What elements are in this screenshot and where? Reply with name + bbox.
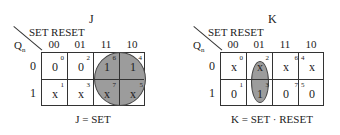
kmap-cell: x 6: [273, 53, 299, 80]
grid-line: [42, 79, 144, 80]
cell-index: 2: [266, 54, 270, 62]
cell-value: x: [247, 60, 273, 75]
cell-value: 0: [42, 60, 68, 75]
row-variable-label: Qn: [193, 39, 204, 54]
cell-value: 1: [94, 60, 120, 75]
cell-value: 1: [247, 87, 273, 102]
grid-line: [221, 79, 323, 80]
row-header: 0: [206, 59, 218, 74]
row-header: 0: [27, 59, 39, 74]
kmap-formula: J = SET: [8, 113, 178, 125]
cell-index: 0: [240, 54, 244, 62]
column-header: 01: [67, 38, 93, 50]
cell-index: 6: [113, 54, 117, 62]
cell-value: 0: [273, 87, 299, 102]
kmap-cell: 0 5: [299, 80, 325, 107]
column-header: 00: [220, 38, 246, 50]
column-header: 00: [41, 38, 67, 50]
cell-value: x: [68, 87, 94, 102]
kmap-cell: x 3: [68, 80, 94, 107]
cell-value: 0: [68, 60, 94, 75]
cell-value: x: [120, 87, 146, 102]
kmap-cell: 0 1: [221, 80, 247, 107]
cell-index: 5: [140, 81, 144, 89]
cell-index: 2: [87, 54, 91, 62]
column-header: 10: [119, 38, 145, 50]
cell-value: x: [273, 60, 299, 75]
kmap-k: K SET RESET Qn 00 01 11 10 0 1 x 0 x 2 x…: [170, 0, 340, 135]
kmap-cell: 0 7: [273, 80, 299, 107]
kmap-cell: x 0: [221, 53, 247, 80]
cell-value: x: [299, 60, 325, 75]
column-header: 11: [272, 38, 298, 50]
row-variable-label: Qn: [14, 39, 25, 54]
cell-value: 1: [120, 60, 146, 75]
kmap-grid: x 0 x 2 x 6 x 4 0 1 1 3 0 7 0 5: [220, 52, 324, 106]
kmap-grid: 0 0 0 2 1 6 1 4 x 1 x 3 x 7 x 5: [41, 52, 145, 106]
row-header: 1: [206, 86, 218, 101]
cell-index: 3: [266, 81, 270, 89]
column-header: 10: [298, 38, 324, 50]
cell-index: 7: [295, 81, 299, 89]
column-header: 01: [246, 38, 272, 50]
cell-index: 1: [240, 81, 244, 89]
kmap-cell: 0 2: [68, 53, 94, 80]
cell-index: 7: [113, 81, 117, 89]
cell-index: 6: [295, 54, 299, 62]
kmap-cell: x 4: [299, 53, 325, 80]
kmap-cell: x 1: [42, 80, 68, 107]
cell-index: 5: [301, 81, 305, 89]
cell-index: 4: [301, 54, 305, 62]
kmap-formula: K = SET · RESET: [187, 113, 340, 125]
cell-index: 3: [87, 81, 91, 89]
kmap-title: J: [89, 12, 94, 27]
column-variable-label: SET RESET: [208, 26, 264, 38]
cell-value: x: [221, 60, 247, 75]
kmap-title: K: [268, 12, 277, 27]
kmap-cell: 0 0: [42, 53, 68, 80]
cell-index: 1: [61, 81, 65, 89]
cell-value: x: [94, 87, 120, 102]
cell-index: 0: [61, 54, 65, 62]
cell-value: 0: [221, 87, 247, 102]
kmap-j: J SET RESET Qn 00 01 11 10 0 1 0 0 0 2 1…: [0, 0, 170, 135]
row-header: 1: [27, 86, 39, 101]
cell-value: 0: [299, 87, 325, 102]
column-header: 11: [93, 38, 119, 50]
cell-value: x: [42, 87, 68, 102]
cell-index: 4: [139, 54, 143, 62]
column-variable-label: SET RESET: [29, 26, 85, 38]
